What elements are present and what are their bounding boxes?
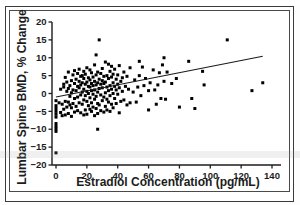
data-point xyxy=(147,89,150,92)
data-point xyxy=(93,63,96,66)
data-point xyxy=(122,98,125,101)
data-point xyxy=(79,111,82,114)
data-point xyxy=(102,96,105,99)
data-point xyxy=(73,97,76,100)
data-point xyxy=(73,82,76,85)
data-point xyxy=(82,98,85,101)
data-point xyxy=(87,104,90,107)
data-point xyxy=(149,81,152,84)
data-point xyxy=(147,108,150,111)
data-point xyxy=(84,94,87,97)
data-point xyxy=(178,106,181,109)
data-point xyxy=(82,88,85,91)
figure-page: −20−15−10−505101520020406080100120140 Lu… xyxy=(0,0,300,205)
data-point xyxy=(55,110,58,113)
data-point xyxy=(104,81,107,84)
data-point xyxy=(105,98,108,101)
data-point xyxy=(99,72,102,75)
data-point xyxy=(55,104,58,107)
data-point xyxy=(76,96,79,99)
data-point xyxy=(85,100,88,103)
data-point xyxy=(118,64,121,67)
data-point xyxy=(155,103,158,106)
data-point xyxy=(88,96,91,99)
data-point xyxy=(138,74,141,77)
data-point xyxy=(226,38,229,41)
data-point xyxy=(95,95,98,98)
data-point xyxy=(107,77,110,80)
data-point xyxy=(109,94,112,97)
data-point xyxy=(164,98,167,101)
data-point xyxy=(55,116,58,119)
y-tick-label: 15 xyxy=(36,34,47,45)
data-point xyxy=(104,91,107,94)
data-point xyxy=(166,71,169,74)
y-tick-label: 0 xyxy=(41,88,46,99)
data-point xyxy=(98,103,101,106)
data-points xyxy=(55,38,265,154)
data-point xyxy=(55,99,58,102)
data-point xyxy=(81,74,84,77)
data-point xyxy=(110,65,113,68)
data-point xyxy=(203,83,206,86)
data-point xyxy=(81,81,84,84)
data-point xyxy=(104,105,107,108)
data-point xyxy=(110,103,113,106)
data-point xyxy=(62,108,65,111)
data-point xyxy=(88,68,91,71)
data-point xyxy=(261,81,264,84)
data-point xyxy=(88,86,91,89)
data-point xyxy=(201,70,204,73)
data-point xyxy=(125,75,128,78)
data-point xyxy=(99,109,102,112)
data-point xyxy=(121,76,124,79)
data-point xyxy=(118,86,121,89)
data-point xyxy=(107,89,110,92)
data-point xyxy=(64,76,67,79)
data-point xyxy=(112,81,115,84)
data-point xyxy=(71,102,74,105)
data-point xyxy=(142,84,145,87)
data-point xyxy=(70,79,73,82)
data-point xyxy=(109,110,112,113)
data-point xyxy=(105,108,108,111)
data-point xyxy=(115,78,118,81)
data-point xyxy=(85,113,88,116)
data-point xyxy=(73,111,76,114)
data-point xyxy=(64,100,67,103)
data-point xyxy=(153,88,156,91)
data-point xyxy=(96,81,99,84)
data-point xyxy=(119,100,122,103)
data-point xyxy=(105,74,108,77)
data-point xyxy=(67,101,70,104)
data-point xyxy=(75,89,78,92)
data-point xyxy=(64,113,67,116)
data-point xyxy=(82,70,85,73)
data-point xyxy=(116,93,119,96)
y-tick-label: −5 xyxy=(36,106,48,117)
data-point xyxy=(75,78,78,81)
scatter-plot: −20−15−10−505101520020406080100120140 Lu… xyxy=(0,0,300,205)
y-tick-label: −20 xyxy=(30,159,46,170)
data-point xyxy=(99,93,102,96)
data-point xyxy=(112,92,115,95)
y-tick-label: 10 xyxy=(36,52,47,63)
data-point xyxy=(76,72,79,75)
data-point xyxy=(116,73,119,76)
data-point xyxy=(73,69,76,72)
data-point xyxy=(141,66,144,69)
data-point xyxy=(136,86,139,89)
data-point xyxy=(193,107,196,110)
data-point xyxy=(84,73,87,76)
data-point xyxy=(67,112,70,115)
data-point xyxy=(138,60,141,63)
data-point xyxy=(161,63,164,66)
y-tick-label: 20 xyxy=(36,16,47,27)
x-tick-label: 140 xyxy=(264,170,280,181)
data-point xyxy=(90,71,93,74)
data-point xyxy=(113,68,116,71)
data-point xyxy=(102,111,105,114)
data-point xyxy=(62,86,65,89)
data-point xyxy=(95,73,98,76)
data-point xyxy=(90,110,93,113)
